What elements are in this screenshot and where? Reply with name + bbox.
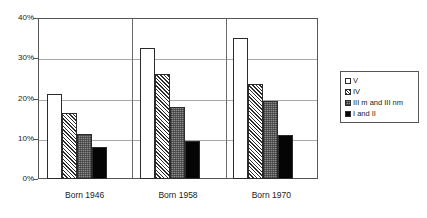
gridline (39, 140, 317, 141)
legend-item[interactable]: IV (345, 86, 415, 97)
legend-swatch-icon (345, 100, 351, 106)
x-axis-label: Born 1958 (131, 190, 224, 200)
gridline (39, 100, 317, 101)
x-axis-label: Born 1946 (38, 190, 131, 200)
legend-label: V (353, 76, 358, 85)
legend-swatch-icon (345, 89, 351, 95)
chart-legend: VIVIII m and III nmI and II (340, 71, 419, 123)
legend-label: III m and III nm (353, 98, 403, 107)
legend-item[interactable]: III m and III nm (345, 97, 415, 108)
x-axis-label: Born 1970 (225, 190, 318, 200)
plot-area (38, 18, 318, 179)
legend-item[interactable]: I and II (345, 108, 415, 119)
x-axis-labels: Born 1946Born 1958Born 1970 (38, 190, 318, 204)
y-tick-mark (33, 179, 38, 180)
bar-chart: 0%10%20%30%40% Born 1946Born 1958Born 19… (0, 0, 427, 218)
gridline (39, 59, 317, 60)
legend-item[interactable]: V (345, 75, 415, 86)
group-divider (132, 19, 133, 178)
legend-label: IV (353, 87, 360, 96)
legend-swatch-icon (345, 111, 351, 117)
legend-label: I and II (353, 109, 376, 118)
legend-swatch-icon (345, 78, 351, 84)
y-axis-ticks (0, 18, 38, 179)
group-divider (226, 19, 227, 178)
